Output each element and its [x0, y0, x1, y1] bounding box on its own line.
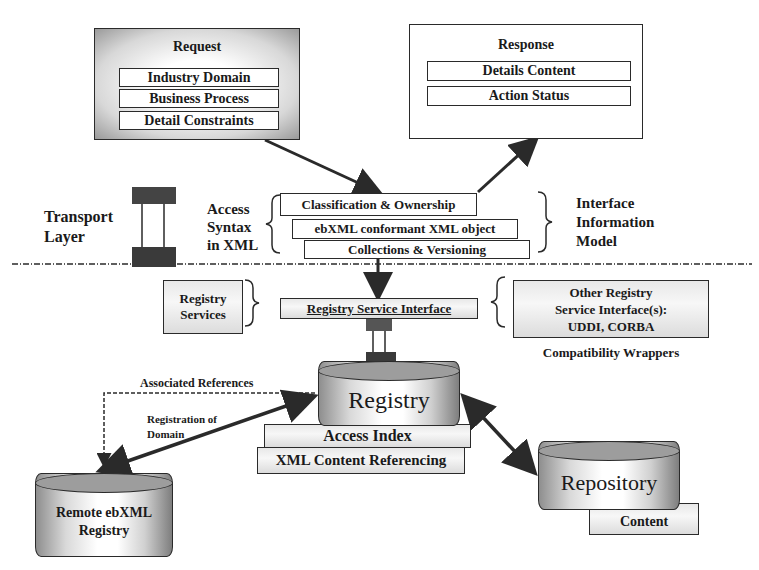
remote-registry-top [35, 473, 173, 493]
ebxml-object-box: ebXML conformant XML object [292, 219, 518, 239]
response-panel: Response Details Content Action Status [409, 24, 643, 139]
request-panel: Request Industry Domain Business Process… [94, 28, 300, 140]
registry-service-interface-box: Registry Service Interface [280, 298, 478, 319]
repository-title: Repository [561, 470, 658, 496]
registry-database-top [318, 361, 460, 381]
classification-ownership-box: Classification & Ownership [280, 193, 477, 216]
registration-of-domain-label: Registration of Domain [147, 412, 217, 442]
interface-information-model-label: Interface Information Model [576, 194, 654, 251]
repository-database: Repository [538, 441, 680, 510]
access-index-layer: Access Index [264, 424, 471, 448]
response-item-action-status: Action Status [427, 86, 631, 106]
request-title: Request [95, 39, 299, 55]
associated-references-label: Associated References [140, 376, 253, 391]
transport-layer-label: Transport Layer [44, 207, 113, 247]
request-item-industry-domain: Industry Domain [119, 68, 279, 87]
request-item-detail-constraints: Detail Constraints [119, 111, 279, 130]
response-title: Response [410, 37, 642, 53]
collections-versioning-box: Collections & Versioning [304, 240, 530, 259]
other-registry-interfaces-box: Other Registry Service Interface(s): UDD… [513, 280, 709, 338]
registry-database: Registry [318, 361, 460, 426]
access-syntax-label: Access Syntax in XML [207, 200, 258, 254]
compatibility-wrappers-caption: Compatibility Wrappers [513, 345, 709, 361]
registry-services-box: Registry Services [163, 280, 243, 334]
xml-content-referencing-layer: XML Content Referencing [257, 447, 465, 474]
request-item-business-process: Business Process [119, 89, 279, 108]
repository-database-top [538, 441, 680, 461]
registry-title: Registry [348, 387, 429, 414]
response-item-details-content: Details Content [427, 61, 631, 81]
remote-ebxml-registry-database: Remote ebXML Registry [35, 473, 173, 557]
